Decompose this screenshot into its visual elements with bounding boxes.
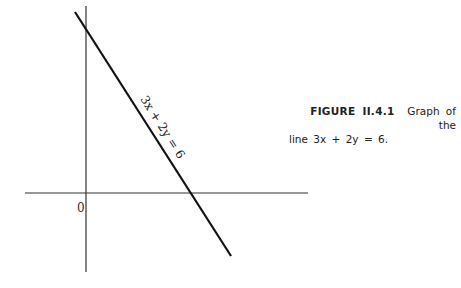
- caption-line1: Graph of the: [407, 105, 456, 131]
- graph-line: [75, 12, 231, 256]
- figure-number: FIGURE II.4.1: [310, 105, 394, 117]
- figure-caption: FIGURE II.4.1 Graph of the line 3x + 2y …: [291, 104, 456, 146]
- caption-line2: line 3x + 2y = 6.: [289, 132, 456, 146]
- origin-label: 0: [77, 201, 85, 215]
